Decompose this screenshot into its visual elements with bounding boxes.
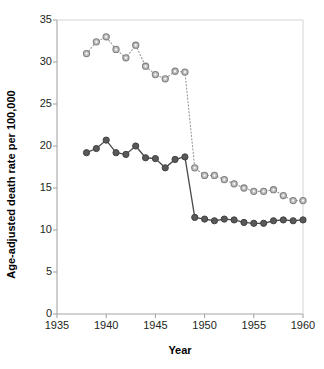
data-point (133, 143, 139, 149)
data-point (123, 151, 129, 157)
chart-plot-area (0, 0, 324, 369)
chart-axes (53, 20, 303, 318)
data-point (142, 155, 148, 161)
data-point (202, 216, 208, 222)
data-point (83, 150, 89, 156)
data-point (300, 217, 306, 223)
data-point (93, 145, 99, 151)
data-point-center (164, 78, 166, 80)
data-point-center (292, 200, 294, 202)
data-point-center (243, 187, 245, 189)
x-axis-tick-label: 1955 (232, 319, 276, 331)
data-point-center (302, 200, 304, 202)
data-point-center (204, 174, 206, 176)
data-point-center (105, 36, 107, 38)
data-point (192, 214, 198, 220)
x-axis-tick-label: 1960 (281, 319, 324, 331)
data-point (211, 218, 217, 224)
data-point (182, 154, 188, 160)
data-point (241, 219, 247, 225)
data-point (221, 216, 227, 222)
data-point-center (233, 183, 235, 185)
series-line-upper-series (87, 37, 303, 201)
data-point (251, 220, 257, 226)
data-point-center (223, 179, 225, 181)
x-axis-tick-label: 1935 (35, 319, 79, 331)
data-point (270, 218, 276, 224)
x-axis-title: Year (57, 344, 303, 356)
data-point-center (263, 190, 265, 192)
data-point-center (194, 167, 196, 169)
data-point (103, 137, 109, 143)
chart-container: Age-adjusted death rate per 100,000 0510… (0, 0, 324, 369)
data-point-center (95, 41, 97, 43)
data-point-center (154, 74, 156, 76)
data-point-center (125, 57, 127, 59)
data-point (113, 150, 119, 156)
data-point-center (184, 71, 186, 73)
data-point (231, 217, 237, 223)
data-point-center (145, 65, 147, 67)
data-point (261, 220, 267, 226)
x-axis-tick-label: 1950 (183, 319, 227, 331)
data-point-center (86, 53, 88, 55)
data-point-center (282, 195, 284, 197)
data-point-center (253, 190, 255, 192)
chart-series (83, 34, 306, 227)
data-point (152, 156, 158, 162)
data-point-center (115, 48, 117, 50)
data-point-center (135, 44, 137, 46)
data-point-center (213, 174, 215, 176)
data-point (162, 165, 168, 171)
data-point (280, 217, 286, 223)
data-point (172, 156, 178, 162)
data-point (290, 218, 296, 224)
data-point-center (272, 189, 274, 191)
x-axis-tick-label: 1945 (133, 319, 177, 331)
data-point-center (174, 70, 176, 72)
x-axis-tick-label: 1940 (84, 319, 128, 331)
